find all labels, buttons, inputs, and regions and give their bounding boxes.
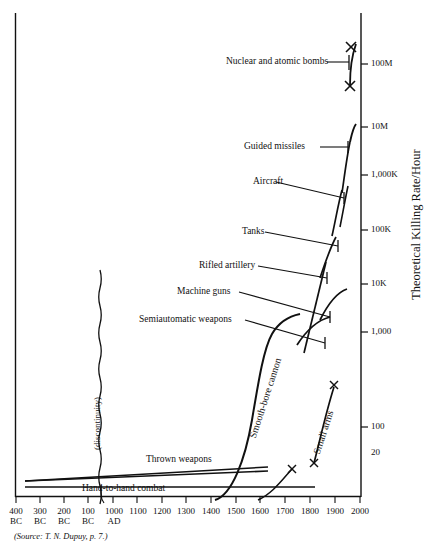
xtick-num: 2000	[345, 506, 375, 516]
curve-small-arms-lower	[258, 469, 292, 500]
annotation-hand-to-hand-combat: Hand-to-hand combat	[82, 484, 165, 494]
leader-aircraft	[276, 182, 344, 198]
annotation-tanks: Tanks	[242, 227, 265, 237]
leader-tanks	[265, 232, 338, 246]
chart-root: 100M 10M 1,000K 100K 10K 1,000 100 20 Th…	[0, 0, 425, 554]
ytick-label-100: 100	[371, 422, 385, 431]
xtick-2000: 2000	[345, 506, 375, 516]
annotation-discontinuity: (discontinuity)	[92, 397, 102, 450]
ytick-label-100k: 100K	[371, 225, 391, 234]
ytick-label-10k: 10K	[371, 279, 387, 288]
leader-semiautomatic	[245, 320, 325, 343]
curve-thrown-weapons-lower	[25, 471, 268, 481]
ytick-label-20: 20	[371, 448, 380, 457]
xtick-era: AD	[99, 516, 129, 526]
ytick-label-100m: 100M	[371, 59, 393, 68]
ytick-label-10m: 10M	[371, 122, 388, 131]
curve-guided-missiles-top	[350, 124, 356, 142]
annotation-semiautomatic-weapons: Semiautomatic weapons	[139, 315, 232, 325]
annotation-guided-missiles: Guided missiles	[244, 142, 305, 152]
x-axis-ticks	[16, 497, 360, 503]
annotation-thrown-weapons: Thrown weapons	[146, 455, 212, 465]
y-axis-title: Theoretical Killing Rate/Hour	[409, 149, 424, 300]
annotation-nuclear-and-atomic-bombs: Nuclear and atomic bombs	[226, 57, 328, 67]
ytick-label-1000: 1,000	[371, 327, 391, 336]
annotation-aircraft: Aircraft	[253, 177, 283, 187]
y-axis-ticks	[361, 64, 368, 427]
annotation-machine-guns: Machine guns	[177, 287, 231, 297]
source-note: (Source: T. N. Dupuy, p. 7.)	[14, 531, 108, 541]
annotation-rifled-artillery: Rifled artillery	[199, 261, 255, 271]
ytick-label-1000k: 1,000K	[371, 170, 398, 179]
leader-rifled-artillery	[258, 266, 327, 278]
chart-canvas	[0, 0, 425, 554]
curve-guided-missiles	[342, 142, 350, 193]
discontinuity-line	[99, 270, 102, 504]
